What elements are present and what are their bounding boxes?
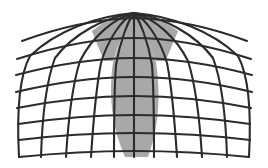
figure-root <box>0 0 268 168</box>
dome-diagram <box>0 0 268 168</box>
